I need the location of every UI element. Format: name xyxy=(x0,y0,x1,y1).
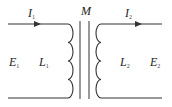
primary-inductance-label: L1 xyxy=(38,55,49,69)
mutual-inductance-label: M xyxy=(80,4,92,18)
primary-coil xyxy=(68,24,73,98)
secondary-current-label: I2 xyxy=(124,6,132,20)
secondary-emf-label: E2 xyxy=(149,55,160,69)
secondary-current-arrow-icon xyxy=(135,21,142,27)
primary-current-label: I1 xyxy=(27,6,35,20)
secondary-coil xyxy=(96,24,101,98)
transformer-diagram: M I1 I2 E1 L1 L2 E2 xyxy=(0,0,172,107)
primary-current-arrow-icon xyxy=(34,21,41,27)
primary-emf-label: E1 xyxy=(8,55,19,69)
secondary-inductance-label: L2 xyxy=(119,55,130,69)
transformer-core xyxy=(80,21,89,99)
